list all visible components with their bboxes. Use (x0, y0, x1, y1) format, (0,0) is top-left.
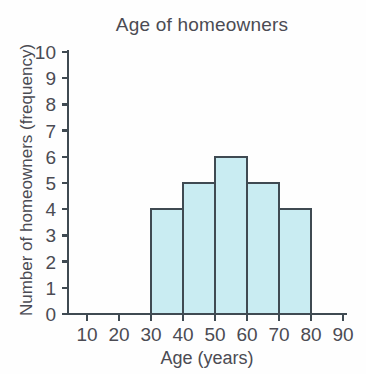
histogram-bar (183, 183, 215, 314)
y-tick-label: 7 (30, 122, 56, 141)
y-tick-label: 6 (30, 148, 56, 167)
y-tick-label: 8 (30, 95, 56, 114)
y-tick-label: 5 (30, 174, 56, 193)
x-tick-label: 90 (323, 325, 363, 344)
histogram-bar (279, 209, 311, 314)
y-tick-label: 4 (30, 200, 56, 219)
y-tick-label: 3 (30, 226, 56, 245)
histogram-bar (151, 209, 183, 314)
histogram-bar (247, 183, 279, 314)
y-tick-label: 1 (30, 279, 56, 298)
y-tick-label: 9 (30, 69, 56, 88)
y-tick-label: 2 (30, 253, 56, 272)
y-tick-label: 10 (30, 43, 56, 62)
histogram-bar (215, 157, 247, 314)
histogram-chart: Age of homeowners Number of homeowners (… (0, 0, 366, 374)
y-tick-label: 0 (30, 305, 56, 324)
